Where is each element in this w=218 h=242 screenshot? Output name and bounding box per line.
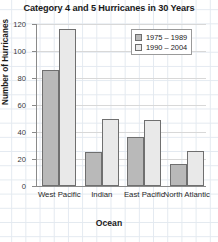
legend-item: 1975 – 1989 (135, 32, 187, 42)
bar-group (42, 24, 76, 186)
bar (59, 29, 76, 186)
y-axis-tick-label: 0 (22, 182, 26, 191)
bar (170, 164, 187, 186)
x-axis-title: Ocean (0, 218, 218, 228)
legend-item-label: 1990 – 2004 (146, 43, 187, 52)
bar (127, 137, 144, 186)
bar (42, 70, 59, 186)
y-axis-tick-label: 80 (18, 74, 26, 83)
y-axis-tick-label: 60 (18, 101, 26, 110)
y-axis-line (36, 24, 37, 187)
x-axis-category-label: North Atlantic (158, 190, 216, 199)
y-axis-tick-label: 120 (13, 20, 26, 29)
bar (85, 152, 102, 186)
legend: 1975 – 1989 1990 – 2004 (131, 29, 192, 55)
legend-swatch-icon (135, 44, 142, 51)
y-axis-tick-label: 20 (18, 155, 26, 164)
bar (144, 120, 161, 186)
bar (187, 151, 204, 186)
legend-item: 1990 – 2004 (135, 42, 187, 52)
x-axis-line (36, 186, 206, 187)
bar (102, 119, 119, 187)
legend-item-label: 1975 – 1989 (146, 33, 187, 42)
y-axis-tick-label: 40 (18, 128, 26, 137)
y-axis-tick-label: 100 (13, 47, 26, 56)
chart-title: Category 4 and 5 Hurricanes in 30 Years (0, 3, 218, 13)
bar-group (85, 24, 119, 186)
y-axis-title: Number of Hurricanes (1, 19, 10, 105)
legend-swatch-icon (135, 34, 142, 41)
